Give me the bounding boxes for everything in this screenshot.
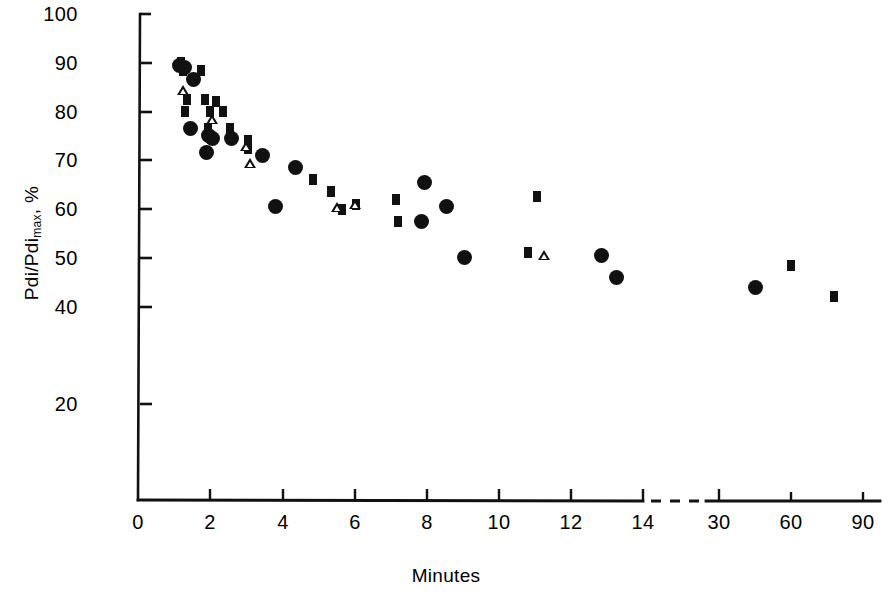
data-point-square [327, 186, 335, 197]
data-point-square [524, 247, 532, 258]
x-axis-line [138, 500, 880, 501]
data-point-square [179, 65, 187, 76]
x-tick-label-6: 6 [325, 511, 385, 534]
y-tick-label-40: 40 [18, 296, 78, 319]
x-tick-label-0: 0 [108, 511, 168, 534]
data-point-circle [748, 280, 763, 295]
x-tick-label-14: 14 [613, 511, 673, 534]
chart-figure: Pdi/Pdimax, % Minutes [0, 0, 892, 615]
data-point-triangle [244, 158, 256, 168]
x-tick-label-12: 12 [541, 511, 601, 534]
x-tick-label-8: 8 [397, 511, 457, 534]
data-point-square [219, 106, 227, 117]
y-axis-ticks [140, 63, 152, 404]
data-point-triangle [206, 114, 218, 124]
x-tick-label-2: 2 [180, 511, 240, 534]
x-axis-ticks [210, 489, 863, 500]
data-point-circle [414, 214, 429, 229]
data-point-square [183, 94, 191, 105]
data-point-square [533, 191, 541, 202]
x-tick-label-60: 60 [761, 511, 821, 534]
x-tick-label-90: 90 [833, 511, 892, 534]
y-tick-label-80: 80 [18, 101, 78, 124]
data-point-square [197, 65, 205, 76]
data-point-circle [183, 121, 198, 136]
y-tick-label-70: 70 [18, 149, 78, 172]
data-point-triangle [331, 202, 343, 212]
data-point-square [181, 106, 189, 117]
x-tick-label-30: 30 [689, 511, 749, 534]
data-point-square [204, 123, 212, 134]
data-point-triangle [240, 141, 252, 151]
data-point-circle [288, 160, 303, 175]
x-axis-label: Minutes [0, 565, 892, 587]
y-tick-label-100: 100 [18, 3, 78, 26]
data-point-square [394, 216, 402, 227]
x-tick-label-4: 4 [253, 511, 313, 534]
data-point-circle [255, 148, 270, 163]
data-point-circle [609, 270, 624, 285]
data-point-square [226, 123, 234, 134]
data-point-square [201, 94, 209, 105]
data-point-circle [268, 199, 283, 214]
data-point-square [787, 260, 795, 271]
y-tick-label-20: 20 [18, 393, 78, 416]
data-point-triangle [349, 199, 361, 209]
data-point-triangle [538, 250, 550, 260]
data-point-square [309, 174, 317, 185]
y-tick-label-90: 90 [18, 52, 78, 75]
data-point-square [830, 291, 838, 302]
data-point-triangle [177, 85, 189, 95]
y-tick-label-50: 50 [18, 247, 78, 270]
x-tick-label-10: 10 [469, 511, 529, 534]
y-tick-label-60: 60 [18, 198, 78, 221]
data-point-square [392, 194, 400, 205]
